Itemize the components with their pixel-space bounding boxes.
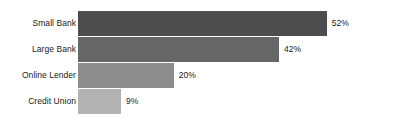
category-label-large-bank: Large Bank	[0, 45, 76, 54]
bar-online-lender	[78, 63, 174, 88]
bar-row: Large Bank 42%	[0, 37, 413, 62]
category-label-credit-union: Credit Union	[0, 97, 76, 106]
bar-credit-union	[78, 89, 121, 114]
bar-small-bank	[78, 11, 327, 36]
bar-rows: Small Bank 52% Large Bank 42% Online Len…	[0, 11, 413, 115]
horizontal-bar-chart: Small Bank 52% Large Bank 42% Online Len…	[0, 0, 413, 124]
bar-track: 52%	[78, 11, 413, 36]
category-label-small-bank: Small Bank	[0, 19, 76, 28]
value-label-credit-union: 9%	[126, 97, 138, 106]
value-label-online-lender: 20%	[179, 71, 196, 80]
bar-large-bank	[78, 37, 279, 62]
bar-row: Credit Union 9%	[0, 89, 413, 114]
bar-track: 20%	[78, 63, 413, 88]
bar-track: 9%	[78, 89, 413, 114]
category-label-online-lender: Online Lender	[0, 71, 76, 80]
value-label-small-bank: 52%	[332, 19, 349, 28]
bar-row: Online Lender 20%	[0, 63, 413, 88]
value-label-large-bank: 42%	[284, 45, 301, 54]
bar-row: Small Bank 52%	[0, 11, 413, 36]
bar-track: 42%	[78, 37, 413, 62]
